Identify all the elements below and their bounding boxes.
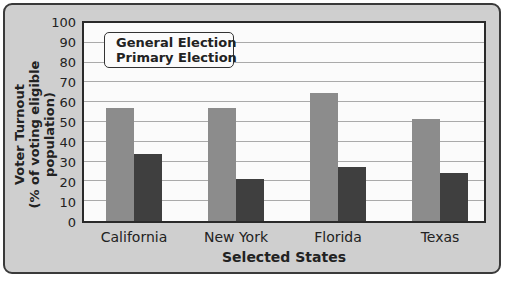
gridline — [84, 101, 484, 102]
bar-california-primary — [134, 154, 162, 221]
y-tick-label: 40 — [48, 136, 76, 150]
y-tick-label: 30 — [48, 156, 76, 170]
x-axis-title: Selected States — [82, 249, 486, 265]
legend-item-primary: Primary Election — [111, 50, 227, 65]
legend-label-primary: Primary Election — [116, 50, 237, 65]
y-axis-title-line-1: Voter Turnout — [12, 35, 27, 235]
bar-new-york-primary — [236, 179, 264, 221]
y-tick-label: 10 — [48, 196, 76, 210]
bar-texas-general — [412, 119, 440, 221]
x-tick-label: Texas — [380, 229, 500, 245]
y-tick-label: 0 — [48, 216, 76, 230]
y-tick-label: 90 — [48, 36, 76, 50]
legend: General Election Primary Election — [104, 32, 234, 68]
y-tick-label: 80 — [48, 56, 76, 70]
bar-texas-primary — [440, 173, 468, 221]
y-tick-label: 50 — [48, 116, 76, 130]
bar-florida-primary — [338, 167, 366, 221]
legend-label-general: General Election — [116, 35, 236, 50]
bar-new-york-general — [208, 108, 236, 221]
y-tick-label: 100 — [48, 16, 76, 30]
bar-florida-general — [310, 93, 338, 221]
gridline — [84, 81, 484, 82]
y-tick-label: 70 — [48, 76, 76, 90]
legend-item-general: General Election — [111, 35, 227, 50]
y-tick-label: 60 — [48, 96, 76, 110]
bar-california-general — [106, 108, 134, 221]
y-tick-label: 20 — [48, 176, 76, 190]
